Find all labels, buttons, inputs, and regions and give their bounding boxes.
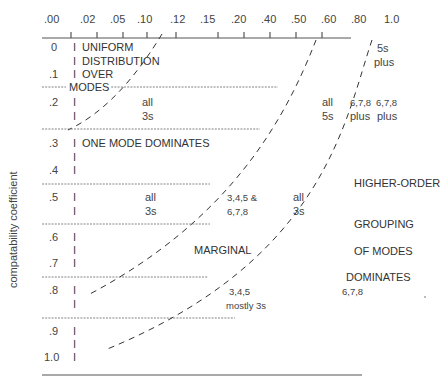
tick-label: .12: [170, 14, 185, 25]
cell-r8-345: 3,4,5: [229, 287, 250, 297]
tick-label: .50: [291, 14, 306, 25]
cell-r2-all5-5s: 5s: [322, 111, 334, 122]
row-label: 1.0: [44, 352, 59, 363]
cell-r2-all: all: [142, 97, 153, 108]
y-axis-label: compatability coefficient: [7, 171, 19, 288]
bar-glyph: I: [73, 299, 76, 310]
region-uniform-line-4: MODES: [68, 82, 110, 93]
cell-r2-3s: 3s: [142, 111, 154, 122]
row-label: .6: [49, 232, 58, 243]
region-higher-order-3: OF MODES: [354, 246, 413, 257]
bar-glyph: I: [73, 97, 76, 108]
cell-r5-left-all: all: [145, 192, 156, 203]
row-label: .5: [49, 192, 58, 203]
tick-label: .05: [110, 14, 125, 25]
region-uniform-line-1: UNIFORM: [82, 42, 133, 53]
bar-glyph: I: [73, 245, 76, 256]
bar-glyph: I: [73, 42, 76, 53]
cell-r8-678: 6,7,8: [342, 287, 363, 297]
cell-r5-right-all: all: [293, 192, 304, 203]
tick-label: .15: [200, 14, 215, 25]
row-label: .4: [49, 165, 58, 176]
bar-glyph: I: [73, 206, 76, 217]
bar-glyph: I: [73, 326, 76, 337]
row-label: 0: [51, 42, 57, 53]
cell-r0-plus: plus: [374, 57, 394, 68]
region-uniform-line-2: DISTRIBUTION: [82, 56, 160, 67]
cell-r5-345: 3,4,5 &: [227, 193, 257, 203]
cell-r5-left-3s: 3s: [145, 206, 157, 217]
bar-glyph: I: [73, 56, 76, 67]
bar-glyph: I: [73, 111, 76, 122]
tick-label: .60: [321, 14, 336, 25]
cell-r8-mostly3s: mostly 3s: [226, 301, 266, 311]
cell-r2-678-a: 6,7,8: [350, 98, 371, 108]
bar-glyph: I: [73, 152, 76, 163]
cell-r5-678: 6,7,8: [227, 207, 248, 217]
bar-glyph: I: [73, 285, 76, 296]
row-label: .7: [49, 258, 58, 269]
row-label: .9: [49, 326, 58, 337]
bar-glyph: I: [73, 192, 76, 203]
tick-label: .80: [351, 14, 366, 25]
cell-r2-plus-b: plus: [377, 111, 397, 122]
tick-label: .02: [80, 14, 95, 25]
cell-r2-plus-a: plus: [350, 111, 370, 122]
region-higher-order-2: GROUPING: [354, 219, 414, 230]
bar-glyph: I: [73, 258, 76, 269]
cell-r0-5s: 5s: [377, 43, 389, 54]
tick-label: .10: [137, 14, 152, 25]
bar-glyph: I: [73, 138, 76, 149]
bar-glyph: I: [73, 352, 76, 363]
region-marginal: MARGINAL: [194, 245, 251, 256]
cell-r5-right-3s: 3s: [293, 206, 305, 217]
tick-label: .00: [44, 14, 59, 25]
curve-2: [88, 40, 316, 295]
tick-label: .20: [231, 14, 246, 25]
row-label: .3: [49, 138, 58, 149]
row-label: .8: [49, 285, 58, 296]
region-one-mode: ONE MODE DOMINATES: [82, 138, 210, 149]
bar-glyph: I: [73, 232, 76, 243]
region-uniform-line-3: OVER: [82, 69, 113, 80]
bar-glyph: I: [73, 165, 76, 176]
bar-glyph: I: [73, 69, 76, 80]
row-label: .1: [49, 69, 58, 80]
tick-label: .40: [261, 14, 276, 25]
cell-r2-678-b: 6,7,8: [376, 98, 397, 108]
bar-glyph: I: [73, 339, 76, 350]
cell-r2-all5-all: all: [322, 97, 333, 108]
stray-dot: [424, 296, 426, 298]
region-higher-order-4: DOMINATES: [346, 272, 411, 283]
region-higher-order-1: HIGHER-ORDER: [354, 178, 440, 189]
row-label: .2: [49, 97, 58, 108]
tick-label: 1.0: [384, 14, 399, 25]
top-axis-ticks: [71, 32, 322, 38]
